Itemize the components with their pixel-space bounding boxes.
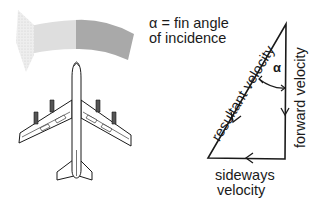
airplane-icon — [19, 62, 131, 180]
legend-line-1: α = fin angle — [149, 16, 229, 31]
forward-velocity-label: forward velocity — [293, 47, 308, 148]
sideways-velocity-label-line-2: velocity — [217, 183, 265, 198]
sideways-velocity-label-line-1: sideways — [215, 168, 275, 183]
legend-line-2: of incidence — [149, 31, 226, 46]
alpha-symbol: α — [273, 60, 281, 75]
angle-arc-icon — [259, 79, 285, 88]
